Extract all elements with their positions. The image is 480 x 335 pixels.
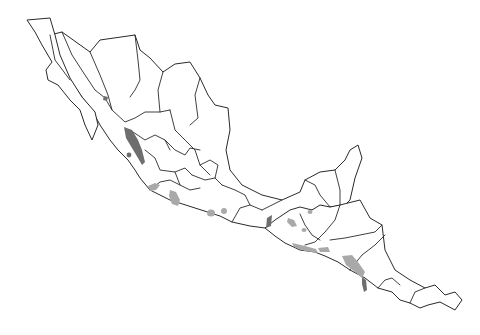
islas-marias-point	[127, 153, 132, 158]
guatemala-patch-2	[308, 210, 313, 214]
guerrero-patch-2	[221, 208, 227, 214]
guerrero-patch-1	[207, 210, 215, 217]
guatemala-patch-3	[302, 228, 307, 232]
mexico-outline	[50, 32, 362, 228]
distribution-map	[0, 0, 480, 335]
central-america-outline	[265, 200, 462, 310]
